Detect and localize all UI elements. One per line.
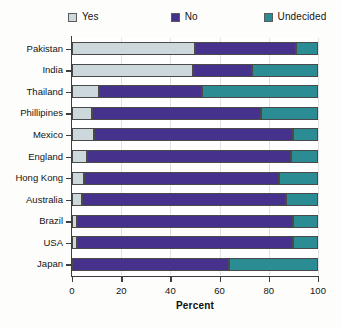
y-axis-label-japan: Japan [0, 259, 63, 269]
y-axis-label-australia: Australia [0, 195, 63, 205]
legend-swatch-undecided-icon [264, 13, 273, 22]
bar-segment-yes[interactable] [72, 107, 92, 120]
legend-item-no: No [171, 12, 198, 22]
bar-segment-undecided[interactable] [229, 258, 318, 271]
y-axis-tick [66, 264, 72, 265]
bar-row[interactable] [72, 258, 318, 271]
bar-row[interactable] [72, 193, 318, 206]
bar-segment-undecided[interactable] [293, 215, 318, 228]
plot-area [72, 38, 318, 275]
bar-row[interactable] [72, 215, 318, 228]
y-axis-label-usa: USA [0, 238, 63, 248]
bar-segment-no[interactable] [82, 193, 286, 206]
chart-legend: Yes No Undecided [62, 8, 334, 26]
bar-segment-undecided[interactable] [296, 42, 318, 55]
y-axis-tick [66, 178, 72, 179]
legend-label-undecided: Undecided [278, 12, 327, 22]
bar-segment-no[interactable] [87, 150, 291, 163]
x-axis-tick [220, 277, 221, 282]
y-axis-label-england: England [0, 152, 63, 162]
bar-row[interactable] [72, 64, 318, 77]
bar-segment-no[interactable] [77, 215, 293, 228]
y-axis-tick [66, 157, 72, 158]
gridline [318, 38, 319, 275]
bar-row[interactable] [72, 128, 318, 141]
x-axis-line [71, 276, 319, 277]
x-axis-tick-label: 80 [249, 285, 289, 296]
y-axis-tick [66, 243, 72, 244]
x-axis-title: Percent [72, 300, 318, 311]
y-axis-tick [66, 113, 72, 114]
legend-swatch-no-icon [171, 13, 180, 22]
bar-segment-undecided[interactable] [252, 64, 318, 77]
bar-segment-yes[interactable] [72, 128, 94, 141]
bar-segment-no[interactable] [92, 107, 262, 120]
y-axis-label-hong-kong: Hong Kong [0, 173, 63, 183]
y-axis-tick [66, 70, 72, 71]
legend-item-undecided: Undecided [264, 12, 327, 22]
x-axis-tick-label: 100 [298, 285, 338, 296]
bar-segment-undecided[interactable] [286, 193, 318, 206]
bar-segment-undecided[interactable] [202, 85, 318, 98]
x-axis-tick-label: 40 [150, 285, 190, 296]
bar-segment-undecided[interactable] [291, 150, 318, 163]
y-axis-tick [66, 221, 72, 222]
bar-segment-yes[interactable] [72, 193, 82, 206]
y-axis-tick [66, 135, 72, 136]
x-axis-tick [318, 277, 319, 282]
bar-segment-yes[interactable] [72, 42, 195, 55]
legend-label-no: No [185, 12, 198, 22]
x-axis-tick [269, 277, 270, 282]
y-axis-tick [66, 92, 72, 93]
bar-segment-yes[interactable] [72, 85, 99, 98]
bar-row[interactable] [72, 85, 318, 98]
bar-segment-no[interactable] [195, 42, 296, 55]
y-axis-label-india: India [0, 65, 63, 75]
legend-label-yes: Yes [82, 12, 99, 22]
bar-segment-undecided[interactable] [279, 172, 318, 185]
bar-row[interactable] [72, 236, 318, 249]
bar-segment-yes[interactable] [72, 150, 87, 163]
y-axis-label-mexico: Mexico [0, 130, 63, 140]
bar-segment-no[interactable] [94, 128, 293, 141]
legend-swatch-yes-icon [68, 13, 77, 22]
y-axis-label-pakistan: Pakistan [0, 44, 63, 54]
y-axis-tick [66, 49, 72, 50]
x-axis-tick-label: 60 [200, 285, 240, 296]
bar-row[interactable] [72, 150, 318, 163]
x-axis-tick [72, 277, 73, 282]
x-axis-tick-label: 0 [52, 285, 92, 296]
bar-segment-no[interactable] [193, 64, 252, 77]
bar-segment-no[interactable] [72, 258, 229, 271]
bar-row[interactable] [72, 172, 318, 185]
bar-segment-undecided[interactable] [293, 128, 318, 141]
x-axis-tick [170, 277, 171, 282]
legend-item-yes: Yes [68, 12, 99, 22]
y-axis-label-brazil: Brazil [0, 216, 63, 226]
bar-row[interactable] [72, 42, 318, 55]
y-axis-label-phillipines: Phillipines [0, 108, 63, 118]
y-axis-tick [66, 200, 72, 201]
x-axis-tick-label: 20 [101, 285, 141, 296]
bar-segment-no[interactable] [84, 172, 278, 185]
bar-segment-undecided[interactable] [261, 107, 318, 120]
bar-segment-undecided[interactable] [293, 236, 318, 249]
bar-segment-yes[interactable] [72, 172, 84, 185]
bar-segment-no[interactable] [77, 236, 293, 249]
stacked-bar-chart: Yes No Undecided PakistanIndiaThailandPh… [0, 0, 341, 329]
bar-rows [72, 38, 318, 275]
bar-segment-yes[interactable] [72, 64, 193, 77]
y-axis-label-thailand: Thailand [0, 87, 63, 97]
bar-row[interactable] [72, 107, 318, 120]
bar-segment-no[interactable] [99, 85, 202, 98]
x-axis-tick [121, 277, 122, 282]
